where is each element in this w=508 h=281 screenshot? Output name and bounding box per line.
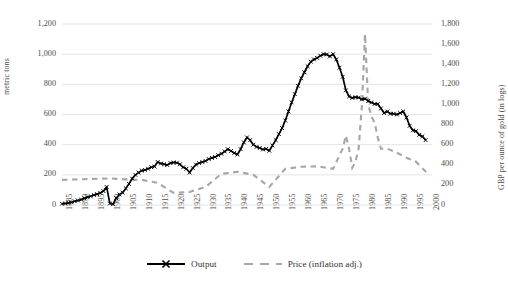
legend-label-price: Price (inflation adj.) — [288, 259, 362, 269]
gold-output-price-chart: metric tons GBP per ounce of gold (in lo… — [0, 0, 508, 281]
legend-swatch-output — [146, 258, 186, 270]
legend-swatch-price — [243, 258, 283, 270]
chart-legend: Output Price (inflation adj.) — [0, 254, 508, 274]
series-price-line — [62, 34, 429, 193]
legend-item-output[interactable]: Output — [146, 258, 217, 270]
series-output-line — [60, 52, 427, 206]
plot-area — [0, 0, 508, 281]
legend-item-price[interactable]: Price (inflation adj.) — [243, 258, 362, 270]
legend-label-output: Output — [191, 259, 217, 269]
